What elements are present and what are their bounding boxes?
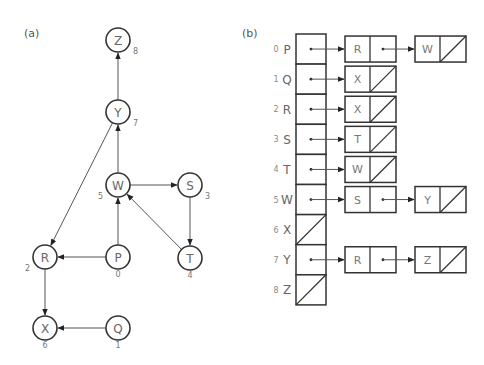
node-label: Q bbox=[113, 322, 122, 336]
graph-node-y: Y7 bbox=[106, 100, 138, 128]
graph-node-s: S3 bbox=[178, 173, 210, 201]
list-node-value: Z bbox=[424, 254, 432, 267]
adjacency-list: 0PRW1QX2RX3ST4TW5WSY6X7YRZ8Z bbox=[273, 34, 466, 305]
list-node-x: X bbox=[345, 66, 396, 92]
list-node-value: R bbox=[354, 43, 362, 56]
node-index: 1 bbox=[115, 341, 120, 350]
list-node-value: T bbox=[353, 133, 361, 146]
list-node-value: S bbox=[354, 194, 361, 207]
node-label: Y bbox=[113, 106, 122, 120]
row-index: 7 bbox=[273, 256, 278, 265]
node-index: 4 bbox=[187, 271, 192, 280]
row-vertex-label: T bbox=[282, 163, 291, 177]
node-label: S bbox=[186, 179, 194, 193]
row-index: 3 bbox=[273, 135, 278, 144]
list-node-value: X bbox=[354, 73, 362, 86]
node-index: 5 bbox=[98, 192, 103, 201]
list-node-r: R bbox=[345, 36, 414, 62]
adjacency-row-s: 3ST bbox=[273, 124, 396, 154]
adjacency-row-q: 1QX bbox=[273, 64, 396, 94]
adjacency-row-y: 7YRZ bbox=[273, 245, 466, 275]
graph-node-p: P0 bbox=[106, 245, 130, 279]
node-index: 3 bbox=[205, 192, 210, 201]
list-node-value: W bbox=[422, 43, 433, 56]
list-node-w: W bbox=[415, 36, 466, 62]
list-node-t: T bbox=[345, 126, 396, 152]
row-index: 8 bbox=[273, 286, 278, 295]
graph-node-z: Z8 bbox=[106, 28, 138, 56]
row-vertex-label: S bbox=[283, 133, 291, 147]
row-index: 6 bbox=[273, 226, 278, 235]
adjacency-row-w: 5WSY bbox=[273, 185, 466, 215]
node-index: 0 bbox=[115, 270, 120, 279]
row-vertex-label: X bbox=[283, 223, 291, 237]
adjacency-row-p: 0PRW bbox=[273, 34, 466, 64]
row-vertex-label: Y bbox=[282, 253, 291, 267]
list-node-value: W bbox=[352, 163, 363, 176]
node-label: W bbox=[112, 179, 124, 193]
list-node-x: X bbox=[345, 96, 396, 122]
node-label: P bbox=[114, 251, 121, 265]
panel-b-label: (b) bbox=[242, 27, 258, 40]
node-index: 2 bbox=[25, 264, 30, 273]
list-node-w: W bbox=[345, 156, 396, 182]
figure: (a) (b) Z8Y7W5S3R2P0T4X6Q1 0PRW1QX2RX3ST… bbox=[0, 0, 484, 365]
node-label: T bbox=[185, 252, 194, 266]
list-node-y: Y bbox=[415, 187, 466, 213]
list-node-z: Z bbox=[415, 247, 466, 273]
graph-node-q: Q1 bbox=[106, 316, 130, 350]
row-vertex-label: W bbox=[281, 193, 293, 207]
list-node-value: R bbox=[354, 254, 362, 267]
node-label: R bbox=[41, 251, 49, 265]
node-index: 7 bbox=[133, 119, 138, 128]
adjacency-row-z: 8Z bbox=[273, 275, 326, 305]
graph-node-x: X6 bbox=[33, 316, 57, 350]
list-node-s: S bbox=[345, 187, 414, 213]
list-node-value: Y bbox=[423, 194, 431, 207]
panel-a-label: (a) bbox=[24, 27, 39, 40]
node-index: 8 bbox=[133, 47, 138, 56]
node-label: X bbox=[41, 322, 49, 336]
graph-node-t: T4 bbox=[178, 246, 202, 280]
row-vertex-label: Z bbox=[283, 283, 291, 297]
node-label: Z bbox=[114, 34, 122, 48]
row-vertex-label: P bbox=[283, 43, 290, 57]
row-index: 0 bbox=[273, 45, 278, 54]
row-index: 2 bbox=[273, 105, 278, 114]
adjacency-row-x: 6X bbox=[273, 215, 326, 245]
graph-node-w: W5 bbox=[98, 173, 130, 201]
figure-canvas: (a) (b) Z8Y7W5S3R2P0T4X6Q1 0PRW1QX2RX3ST… bbox=[0, 0, 484, 365]
edge-t-to-w bbox=[127, 194, 181, 249]
edge-y-to-r bbox=[51, 123, 113, 246]
row-index: 4 bbox=[273, 165, 278, 174]
adjacency-row-r: 2RX bbox=[273, 94, 396, 124]
node-index: 6 bbox=[42, 341, 47, 350]
list-node-value: X bbox=[354, 103, 362, 116]
row-index: 5 bbox=[273, 196, 278, 205]
list-node-r: R bbox=[345, 247, 414, 273]
adjacency-row-t: 4TW bbox=[273, 154, 396, 184]
row-index: 1 bbox=[273, 75, 278, 84]
graph-node-r: R2 bbox=[25, 245, 57, 273]
row-vertex-label: R bbox=[283, 103, 291, 117]
row-vertex-label: Q bbox=[282, 73, 291, 87]
